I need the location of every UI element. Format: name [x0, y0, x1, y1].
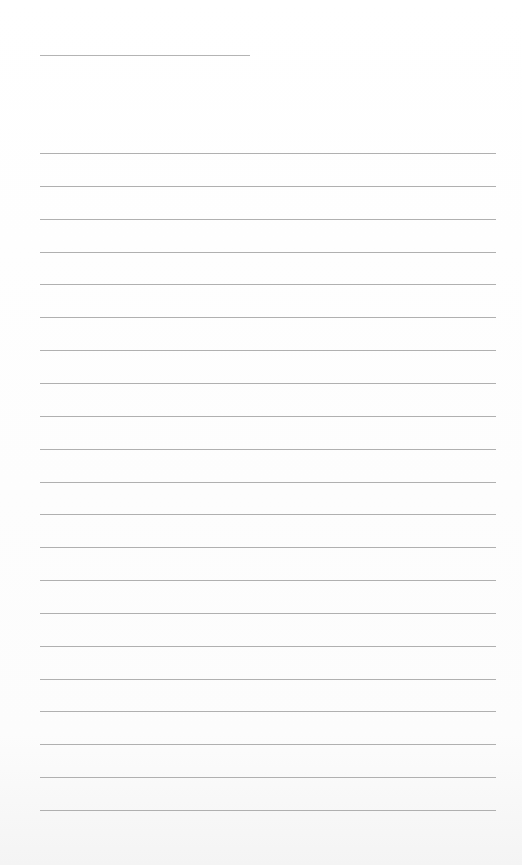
ruled-line — [40, 186, 496, 187]
ruled-line — [40, 449, 496, 450]
ruled-line — [40, 317, 496, 318]
ruled-line — [40, 679, 496, 680]
ruled-line — [40, 416, 496, 417]
ruled-line — [40, 613, 496, 614]
ruled-line — [40, 580, 496, 581]
ruled-line — [40, 383, 496, 384]
ruled-line — [40, 777, 496, 778]
ruled-line — [40, 284, 496, 285]
ruled-line — [40, 350, 496, 351]
ruled-line — [40, 482, 496, 483]
ruled-line — [40, 711, 496, 712]
ruled-line — [40, 153, 496, 154]
ruled-line — [40, 810, 496, 811]
ruled-line — [40, 252, 496, 253]
ruled-line — [40, 646, 496, 647]
header-rule-line — [40, 55, 250, 56]
ruled-line — [40, 744, 496, 745]
ruled-line — [40, 514, 496, 515]
ruled-line — [40, 219, 496, 220]
ruled-line — [40, 547, 496, 548]
lined-paper-page — [0, 0, 522, 865]
